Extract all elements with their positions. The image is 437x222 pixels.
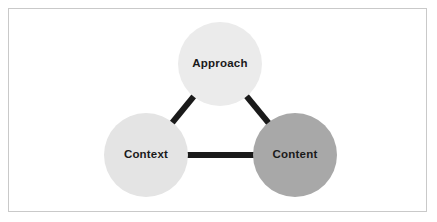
node-label-content: Content [273, 149, 318, 161]
node-label-approach: Approach [192, 58, 247, 70]
node-label-context: Context [124, 149, 168, 161]
connector-approach-context [171, 95, 195, 124]
connector-approach-content [245, 95, 269, 124]
node-circle-group [104, 22, 337, 197]
diagram-canvas: Approach Context Content [0, 0, 437, 222]
diagram-graphic [0, 0, 437, 222]
